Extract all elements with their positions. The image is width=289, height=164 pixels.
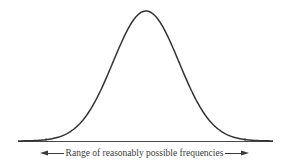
range-caption: Range of reasonably possible frequencies xyxy=(0,146,289,160)
left-arrow-icon xyxy=(40,150,64,156)
caption-label: Range of reasonably possible frequencies xyxy=(64,148,226,158)
normal-distribution-curve xyxy=(18,11,273,141)
bell-curve-figure xyxy=(0,0,289,164)
right-arrow-icon xyxy=(225,150,249,156)
